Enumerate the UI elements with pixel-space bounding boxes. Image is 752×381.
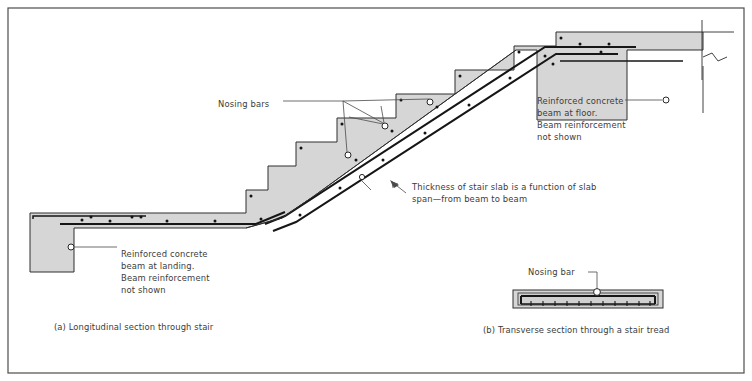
floor-beam-leader-dot xyxy=(663,97,669,103)
transverse-section-group xyxy=(513,272,663,308)
tread-nosing-bar-circle xyxy=(594,289,601,296)
stair-section-drawing: Nosing bars Thickness of stair slab is a… xyxy=(0,0,752,381)
figure-page: Nosing bars Thickness of stair slab is a… xyxy=(0,0,752,381)
landing-beam-note-line4: not shown xyxy=(121,285,166,295)
landing-beam-leader-dot xyxy=(68,244,74,250)
floor-beam-note-line1: Reinforced concrete xyxy=(537,96,624,106)
figure-border xyxy=(8,8,744,373)
caption-a: (a) Longitudinal section through stair xyxy=(54,322,214,332)
floor-beam-note-line3: Beam reinforcement xyxy=(537,120,626,130)
thickness-note-line2: span—from beam to beam xyxy=(412,194,527,204)
nosing-bar-circle xyxy=(345,152,351,158)
nosing-bar-circle xyxy=(359,174,364,179)
landing-beam-note-line3: Beam reinforcement xyxy=(121,273,210,283)
tread-inner-slab xyxy=(518,293,658,305)
slab-thickness-tick xyxy=(360,179,371,190)
longitudinal-section-group xyxy=(30,20,734,272)
thickness-note-line1: Thickness of stair slab is a function of… xyxy=(411,182,596,192)
landing-beam-note-line2: beam at landing. xyxy=(121,261,195,271)
tread-nosing-bar-label: Nosing bar xyxy=(528,267,575,277)
nosing-bars-label: Nosing bars xyxy=(218,99,269,109)
floor-beam-note-line2: beam at floor. xyxy=(537,108,597,118)
thickness-leader xyxy=(390,180,406,193)
break-line-symbol xyxy=(702,20,734,113)
nosing-bar-circle xyxy=(427,99,433,105)
floor-beam-note-line4: not shown xyxy=(537,132,582,142)
caption-b: (b) Transverse section through a stair t… xyxy=(483,325,669,335)
stair-concrete-outline xyxy=(30,32,703,272)
landing-beam-note-line1: Reinforced concrete xyxy=(121,249,208,259)
